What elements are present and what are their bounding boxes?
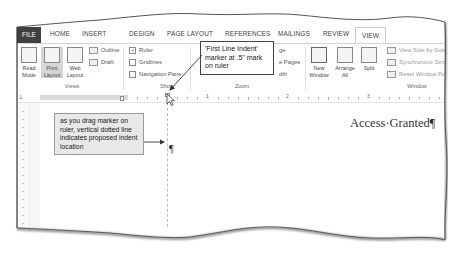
ruler-tick [177, 97, 178, 99]
tab-home[interactable]: HOME [50, 30, 70, 37]
gridlines-label: Gridlines [139, 59, 162, 65]
ruler-tick [439, 97, 440, 99]
tab-insert[interactable]: INSERT [82, 30, 106, 37]
web-layout-button[interactable]: Web Layout [64, 47, 86, 78]
print-layout-icon [44, 47, 60, 63]
ruler-tick [318, 97, 319, 99]
multiple-pages-button[interactable]: e Pages [279, 59, 300, 65]
arrange-all-button[interactable]: Arrange All [332, 47, 358, 78]
synchronous-scrolling-icon [387, 59, 396, 66]
draft-label: Draft [101, 59, 114, 65]
ruler-tick [22, 183, 24, 184]
navigation-pane-checkbox[interactable]: Navigation Pane [129, 71, 182, 78]
view-side-by-side-label: View Side by Side [399, 47, 445, 53]
ruler-tick [22, 207, 24, 208]
torn-right-shadow [445, 22, 447, 240]
one-page-button[interactable]: ge [279, 47, 285, 53]
page-width-button[interactable]: dth [279, 71, 287, 77]
ruler-label: Ruler [139, 47, 153, 53]
ruler-number: 1 [206, 93, 209, 99]
ruler-tick [197, 97, 198, 99]
torn-bottom-line [17, 227, 445, 240]
ruler-left-margin [40, 95, 128, 100]
ruler-tick [22, 191, 24, 192]
indent-guide-line [167, 103, 168, 227]
ruler-tick [389, 97, 390, 99]
views-group-label: Views [57, 83, 87, 89]
ruler-number: 3 [367, 93, 370, 99]
tab-view[interactable]: VIEW [355, 27, 386, 44]
new-window-label-2: Window [306, 72, 332, 79]
ruler-tick [258, 97, 259, 99]
tab-mailings[interactable]: MAILINGS [278, 30, 310, 37]
torn-bottom-shadow [17, 228, 445, 240]
view-side-by-side-button[interactable]: View Side by Side [387, 47, 445, 54]
ruler-tick [298, 97, 299, 99]
window-group-label: Window [397, 83, 437, 89]
paragraph-mark: ¶ [430, 116, 435, 130]
ruler-tick [22, 159, 24, 160]
group-separator [123, 47, 124, 90]
ruler-tick [167, 97, 168, 100]
zoom-group-label: Zoom [222, 83, 262, 89]
tab-file[interactable]: FILE [17, 27, 41, 43]
outline-button[interactable]: Outline [89, 47, 119, 54]
hanging-indent-marker[interactable] [120, 96, 124, 101]
ruler-tick [348, 97, 349, 99]
torn-right-edge [445, 0, 465, 254]
torn-top-line [17, 13, 445, 27]
ruler-tick [157, 97, 158, 99]
checkbox-icon [129, 71, 136, 78]
ruler-tick [22, 223, 24, 224]
split-button[interactable]: Split [358, 47, 380, 72]
page-left-shade [30, 103, 40, 227]
ruler-tick [22, 143, 24, 144]
checkbox-icon [129, 59, 136, 66]
ruler-tick [379, 97, 380, 99]
ruler-tick [22, 135, 24, 136]
web-layout-label-2: Layout [64, 72, 86, 79]
tab-design[interactable]: DESIGN [129, 30, 155, 37]
tab-review[interactable]: REVIEW [323, 30, 349, 37]
ruler-tick [22, 167, 24, 168]
ruler-tick [22, 175, 24, 176]
print-layout-button[interactable]: Print Layout [41, 47, 63, 78]
reset-window-position-button[interactable]: Reset Window Position [387, 71, 445, 78]
horizontal-ruler[interactable]: L 1 2 3 [17, 93, 445, 103]
ruler-tick [328, 97, 329, 100]
document-heading[interactable]: Access·Granted¶ [350, 116, 435, 131]
view-side-by-side-icon [387, 47, 396, 54]
tab-references[interactable]: REFERENCES [225, 30, 270, 37]
new-window-button[interactable]: New Window [306, 47, 332, 78]
ruler-tick [399, 97, 400, 99]
ruler-checkbox[interactable]: ✓Ruler [129, 47, 153, 54]
ruler-tick [419, 97, 420, 99]
tab-selector[interactable]: L [20, 94, 26, 100]
gridlines-checkbox[interactable]: Gridlines [129, 59, 162, 66]
ruler-tick [248, 97, 249, 100]
ruler-tick [338, 97, 339, 99]
reset-window-position-label: Reset Window Position [399, 71, 445, 77]
draft-button[interactable]: Draft [89, 59, 114, 66]
ruler-tick [22, 215, 24, 216]
navigation-pane-label: Navigation Pane [139, 71, 182, 77]
vertical-ruler [17, 103, 30, 227]
group-separator [190, 47, 191, 90]
print-layout-label-2: Layout [41, 72, 63, 79]
read-mode-button[interactable]: Read Mode [18, 47, 40, 78]
ruler-tick [308, 97, 309, 99]
arrange-all-label-1: Arrange [332, 65, 358, 72]
screenshot-frame: FILE HOME INSERT DESIGN PAGE LAYOUT REFE… [0, 0, 465, 254]
synchronous-scrolling-label: Synchronous Scrolling [399, 59, 445, 65]
ruler-tick [218, 97, 219, 99]
synchronous-scrolling-button[interactable]: Synchronous Scrolling [387, 59, 445, 66]
arrange-all-label-2: All [332, 72, 358, 79]
new-window-icon [311, 47, 327, 63]
ruler-tick [409, 97, 410, 100]
ruler-number: 2 [286, 93, 289, 99]
ruler-tick [147, 97, 148, 99]
tab-page-layout[interactable]: PAGE LAYOUT [167, 30, 213, 37]
paragraph-mark: ¶ [169, 143, 174, 154]
read-mode-icon [21, 47, 37, 63]
read-mode-label-2: Mode [18, 72, 40, 79]
